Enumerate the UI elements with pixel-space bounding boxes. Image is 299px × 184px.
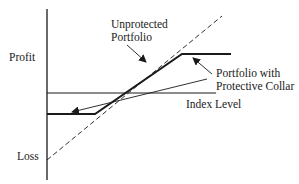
collar-pointer-arrow-cap	[193, 58, 212, 74]
protective-collar-diagram: Profit Loss Index Level Unprotected Port…	[0, 0, 299, 184]
index-level-label: Index Level	[186, 98, 241, 111]
unprotected-label-line1: Unprotected	[111, 18, 168, 31]
collar-label-line1: Portfolio with	[216, 67, 280, 80]
unprotected-label-line2: Portfolio	[111, 31, 152, 44]
collar-label-line2: Protective Collar	[216, 80, 294, 93]
profit-label: Profit	[9, 51, 35, 64]
loss-label: Loss	[17, 150, 39, 163]
unprotected-pointer-arrow	[127, 45, 146, 62]
